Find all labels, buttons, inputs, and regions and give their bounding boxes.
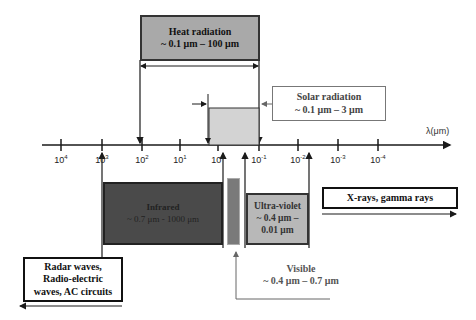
tick-label-1e-4: 10-4 — [370, 154, 385, 165]
tick-label-1e0: 100 — [211, 154, 224, 165]
axis-label: λ(μm) — [426, 126, 449, 136]
tick-label-1e2: 102 — [135, 154, 148, 165]
visible-title: Visible — [286, 263, 315, 276]
infrared-box: Infrared ~ 0.7 μm - 1000 μm — [103, 182, 223, 245]
heat-radiation-title: Heat radiation — [169, 26, 232, 39]
infrared-range-label: ~ 0.7 μm - 1000 μm — [127, 214, 199, 225]
infrared-title: Infrared — [147, 202, 180, 213]
radar-line3: waves, AC circuits — [34, 286, 112, 299]
solar-radiation-range — [192, 94, 272, 145]
tick-label-1e1: 101 — [173, 154, 186, 165]
heat-radiation-box: Heat radiation ~ 0.1 μm – 100 μm — [140, 15, 260, 61]
tick-label-1e-1: 10-1 — [251, 154, 266, 165]
tick-label-1e-3: 10-3 — [330, 154, 345, 165]
solar-radiation-title: Solar radiation — [297, 91, 362, 104]
tick-label-1e3: 103 — [95, 154, 108, 165]
heat-radiation-range-label: ~ 0.1 μm – 100 μm — [161, 38, 239, 51]
visible-label: Visible ~ 0.4 μm – 0.7 μm — [246, 262, 356, 288]
visible-bar — [227, 178, 240, 245]
solar-radiation-range-label: ~ 0.1 μm – 3 μm — [295, 104, 363, 117]
ultraviolet-range-line1: ~ 0.4 μm – — [257, 213, 299, 225]
radar-box: Radar waves, Radio-electric waves, AC ci… — [23, 257, 123, 302]
ultraviolet-box: Ultra-violet ~ 0.4 μm – 0.01 μm — [246, 193, 309, 245]
visible-range-label: ~ 0.4 μm – 0.7 μm — [263, 275, 339, 288]
ultraviolet-title: Ultra-violet — [254, 201, 301, 213]
ultraviolet-range-line2: 0.01 μm — [261, 225, 293, 237]
tick-label-1e-2: 10-2 — [290, 154, 305, 165]
radar-line1: Radar waves, — [44, 261, 102, 274]
solar-radiation-box: Solar radiation ~ 0.1 μm – 3 μm — [272, 86, 386, 121]
xrays-box: X-rays, gamma rays — [322, 187, 458, 209]
radar-line2: Radio-electric — [43, 273, 103, 286]
xrays-title: X-rays, gamma rays — [347, 192, 433, 205]
tick-label-1e4: 104 — [54, 154, 67, 165]
